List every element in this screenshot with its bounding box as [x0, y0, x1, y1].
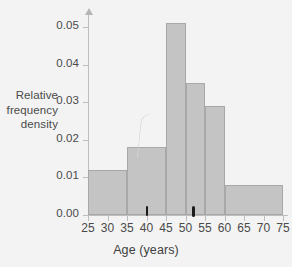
histogram-figure: Relative frequency density 0.000.010.020… [0, 0, 292, 267]
histogram-bar-50-55 [186, 83, 206, 215]
y-tick-label-2: 0.02 [31, 132, 79, 144]
y-tick-label-1: 0.01 [31, 169, 79, 181]
y-tick-label-3: 0.03 [31, 94, 79, 106]
y-tick-3 [83, 102, 89, 103]
x-tick-label-10: 75 [269, 221, 292, 235]
y-tick-4 [83, 65, 89, 66]
y-tick-2 [83, 140, 89, 141]
y-tick-label-4: 0.04 [31, 57, 79, 69]
y-tick-5 [83, 27, 89, 28]
y-axis-title-line-3: density [0, 117, 58, 132]
histogram-bar-25-35 [88, 170, 127, 215]
marker-1 [146, 206, 148, 216]
marker-2 [192, 206, 195, 217]
y-axis-arrow-icon [85, 8, 93, 15]
histogram-bar-60-75 [225, 185, 284, 215]
x-axis-line [88, 215, 288, 216]
y-tick-label-0: 0.00 [31, 207, 79, 219]
histogram-bar-55-60 [205, 106, 225, 215]
x-axis-title: Age (years) [0, 243, 292, 257]
y-tick-label-5: 0.05 [31, 19, 79, 31]
histogram-bar-45-50 [166, 23, 186, 215]
